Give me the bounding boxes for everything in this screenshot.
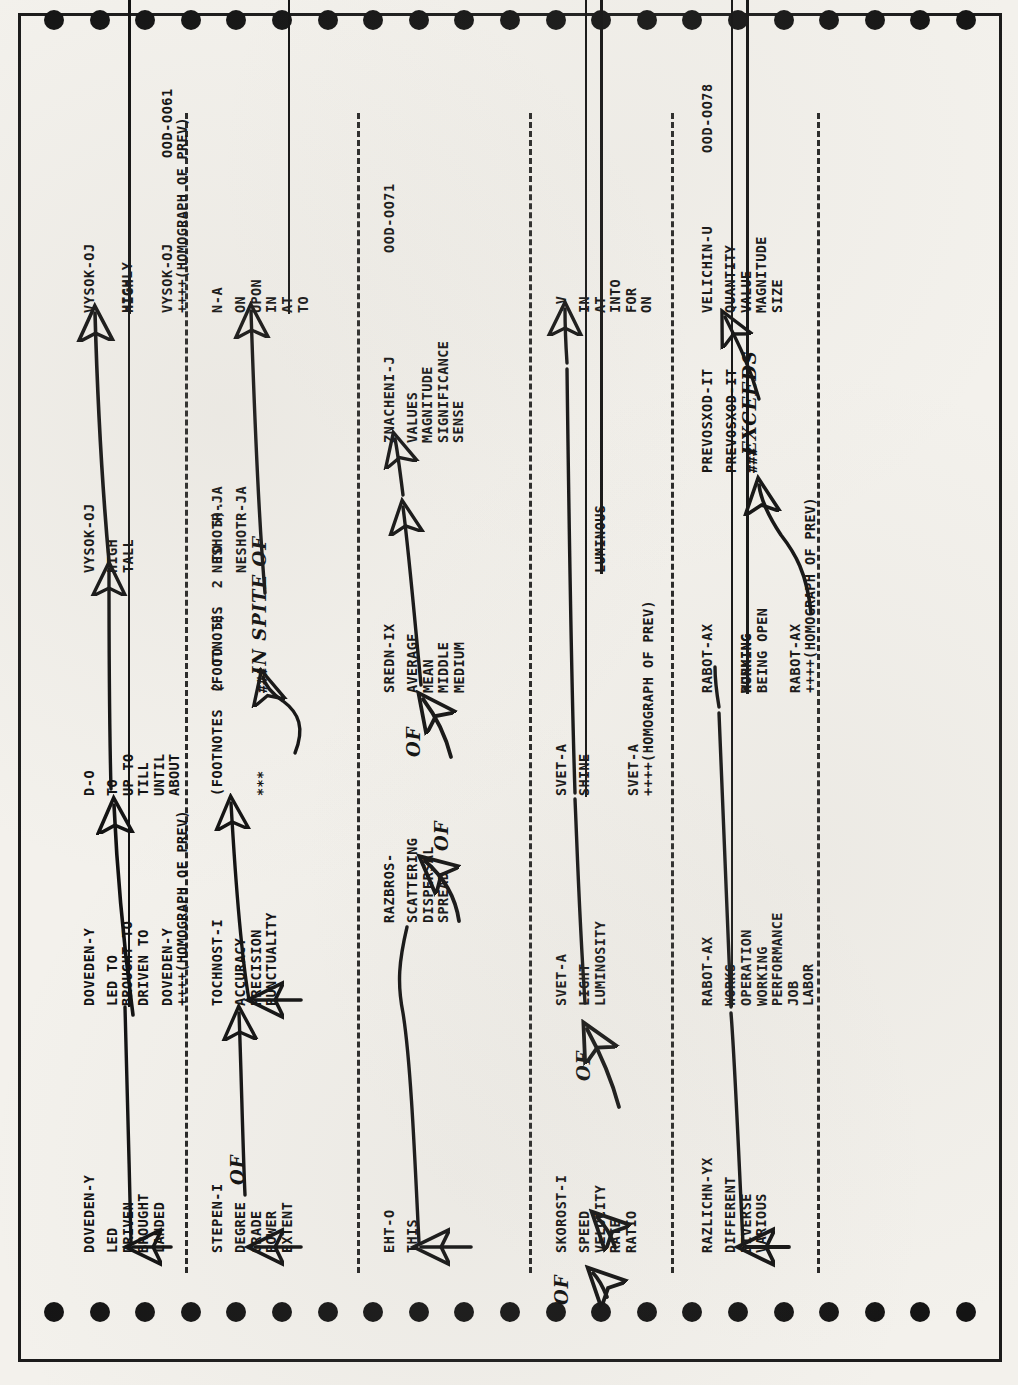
handwritten-of: OF bbox=[227, 1154, 248, 1184]
footnote-marker: *** bbox=[255, 770, 271, 796]
headword: TOCHNOST-I bbox=[209, 918, 225, 1005]
headword: STEPEN-I bbox=[209, 1183, 225, 1253]
sense-list: OPERATION WORKING PERFORMANCE JOB LABOR bbox=[739, 912, 817, 1006]
headword: VYSOK-OJ bbox=[159, 243, 175, 313]
perforation-hole bbox=[135, 10, 155, 30]
arrow bbox=[95, 313, 109, 561]
handwritten-of: OF bbox=[573, 1050, 594, 1080]
headword: DOVEDEN-Y bbox=[159, 927, 175, 1006]
perforation-hole bbox=[910, 10, 930, 30]
headword: SKOROST-I bbox=[553, 1174, 569, 1253]
homograph-note: ++++(HOMOGRAPH OF PREV) bbox=[640, 599, 656, 795]
sense-list: SPEED VELOCITY RATE RATIO bbox=[577, 1184, 639, 1252]
headword: RAZLICHN-YX bbox=[699, 1156, 715, 1252]
homograph-note: ++++(HOMOGRAPH OF PREV) bbox=[174, 809, 190, 1005]
sense-item-struck: SHINE bbox=[577, 0, 593, 796]
sense-item: TO bbox=[296, 295, 312, 312]
row-separator bbox=[357, 113, 360, 1273]
handwritten-of: OF bbox=[403, 726, 424, 756]
perforation-hole bbox=[500, 10, 520, 30]
perforation-row-top bbox=[18, 10, 1002, 36]
perforation-hole bbox=[454, 10, 474, 30]
perforation-hole bbox=[409, 10, 429, 30]
sense-item-struck: WORKING bbox=[739, 0, 755, 693]
handwritten-exceeds: EXCEEDS bbox=[739, 350, 760, 455]
perforation-hole bbox=[956, 10, 976, 30]
sense-list: ACCURACY PRECISION PUNCTUALITY bbox=[233, 912, 280, 1006]
sense-list: HIGH TALL bbox=[105, 538, 136, 572]
headword: RABOT-AX bbox=[787, 623, 803, 693]
perforation-hole bbox=[90, 10, 110, 30]
page-code: OOD-OO71 bbox=[381, 183, 397, 253]
handdrawn-arrow-layer bbox=[59, 73, 959, 1313]
homograph-note: ++++(HOMOGRAPH OF PREV) bbox=[802, 496, 818, 692]
sense-list: ON UPON IN bbox=[233, 278, 280, 312]
sense-list: RUNNING BEING OPEN bbox=[739, 607, 770, 692]
sense-list: DIFFERENT DIVERSE VARIOUS bbox=[723, 1176, 770, 1253]
sense-list: LED DRIVEN BROUGHT LANDED bbox=[105, 1193, 167, 1253]
sense-item-struck: AT bbox=[280, 0, 296, 313]
headword: RABOT-AX bbox=[699, 936, 715, 1006]
headword: VELICHIN-U bbox=[699, 225, 715, 312]
perforation-hole bbox=[819, 10, 839, 30]
sense-list: THIS bbox=[405, 1218, 421, 1252]
headword: NESHOTR-JA bbox=[233, 485, 249, 572]
arrow bbox=[423, 699, 451, 757]
headword: PREVOSXOD-IT bbox=[723, 368, 739, 473]
sense-list: AVERAGE MEAN MIDDLE MEDIUM bbox=[405, 633, 467, 693]
handwritten-of: OF bbox=[431, 820, 452, 850]
headword: N-A bbox=[209, 286, 225, 312]
perforation-hole bbox=[318, 10, 338, 30]
sense-item: HIGHLY bbox=[120, 261, 136, 312]
perforation-hole bbox=[637, 10, 657, 30]
headword: -V bbox=[553, 295, 569, 312]
sense-list: QUANTITY VALUE MAGNITUDE SIZE bbox=[723, 236, 785, 313]
arrow bbox=[395, 439, 403, 495]
perforation-hole bbox=[226, 10, 246, 30]
headword: RAZBROS- bbox=[381, 853, 397, 923]
scanned-page: DOVEDEN-Y LED DRIVEN BROUGHT LANDED DOVE… bbox=[0, 0, 1018, 1385]
headword: EHT-O bbox=[381, 1209, 397, 1253]
headword: NESHOTR-JA bbox=[209, 485, 225, 572]
sense-item-struck: WORKS bbox=[723, 0, 739, 1006]
sense-list: IN AT INTO FOR ON bbox=[577, 278, 655, 312]
perforation-hole bbox=[363, 10, 383, 30]
perforation-hole bbox=[682, 10, 702, 30]
page-code: OOD-OO61 bbox=[159, 88, 175, 158]
perforation-hole bbox=[956, 1302, 976, 1322]
sense-list: DEGREE GRADE POWER EXTENT bbox=[233, 1201, 295, 1252]
perforation-hole bbox=[774, 10, 794, 30]
homograph-note: ++++(HOMOGRAPH OF PREV) bbox=[174, 116, 190, 312]
entry-row-5: RAZLICHN-YX DIFFERENT DIVERSE VARIOUS RA… bbox=[59, 73, 90, 1313]
sense-list: LIGHT LUMINOSITY bbox=[577, 920, 608, 1005]
sense-list: MAGNITUDE SIGNIFICANCE SENSE bbox=[420, 340, 467, 442]
arrow-line bbox=[567, 369, 575, 793]
handwritten-of: OF bbox=[551, 1274, 572, 1304]
arrow-line bbox=[400, 927, 419, 1243]
headword: RABOT-AX bbox=[699, 623, 715, 693]
arrow bbox=[593, 1273, 607, 1297]
rotated-content-plane: DOVEDEN-Y LED DRIVEN BROUGHT LANDED DOVE… bbox=[59, 73, 959, 1313]
headword: PREVOSXOD-IT bbox=[699, 368, 715, 473]
headword: SVET-A bbox=[553, 743, 569, 795]
row-separator bbox=[671, 113, 674, 1273]
sense-list: TO UP TO TILL UNTIL ABOUT bbox=[105, 753, 183, 796]
headword: ZNACHENI-J bbox=[381, 355, 397, 442]
page-code: OOD-OO78 bbox=[699, 83, 715, 153]
perforation-hole bbox=[44, 10, 64, 30]
arrow-line bbox=[715, 667, 719, 707]
perforation-hole bbox=[865, 10, 885, 30]
perforation-hole bbox=[546, 10, 566, 30]
perforation-hole bbox=[181, 10, 201, 30]
headword: SVET-A bbox=[553, 953, 569, 1005]
row-separator bbox=[529, 113, 532, 1273]
handwritten-in-spite-of: IN SPITE OF bbox=[249, 536, 270, 675]
sense-item: DRIVEN TO bbox=[136, 929, 152, 1006]
headword: SREDN-IX bbox=[381, 623, 397, 693]
headword: SVET-A bbox=[625, 743, 641, 795]
arrow bbox=[565, 309, 567, 363]
